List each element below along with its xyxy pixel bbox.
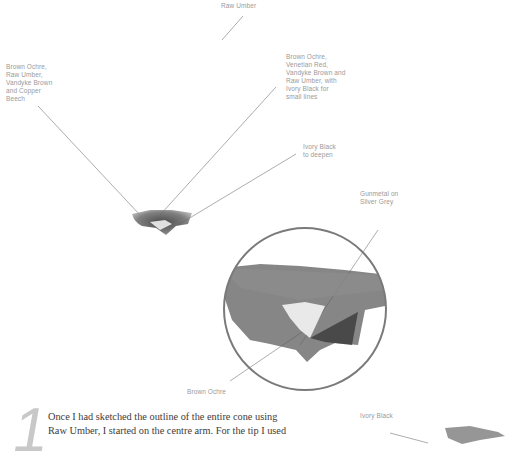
label-ivory-black-deepen: Ivory Black to deepen bbox=[303, 143, 336, 159]
label-left-colors: Brown Ochre, Raw Umber, Vandyke Brown an… bbox=[6, 63, 52, 103]
small-arm-sketch bbox=[445, 426, 505, 444]
step-text-line: Once I had sketched the outline of the e… bbox=[48, 410, 348, 424]
step-text: Once I had sketched the outline of the e… bbox=[48, 410, 348, 437]
label-gunmetal: Gunmetal on Silver Grey bbox=[360, 190, 398, 206]
leader-lines bbox=[38, 16, 428, 443]
small-cone-sketch bbox=[132, 210, 192, 235]
label-brown-ochre: Brown Ochre bbox=[187, 388, 226, 396]
label-ivory-black-bottom: Ivory Black bbox=[360, 412, 393, 420]
magnified-detail bbox=[222, 228, 388, 390]
step-text-line: Raw Umber, I started on the centre arm. … bbox=[48, 424, 348, 438]
label-raw-umber-top: Raw Umber bbox=[221, 2, 256, 10]
label-right-colors: Brown Ochre, Venetian Red, Vandyke Brown… bbox=[286, 53, 345, 101]
